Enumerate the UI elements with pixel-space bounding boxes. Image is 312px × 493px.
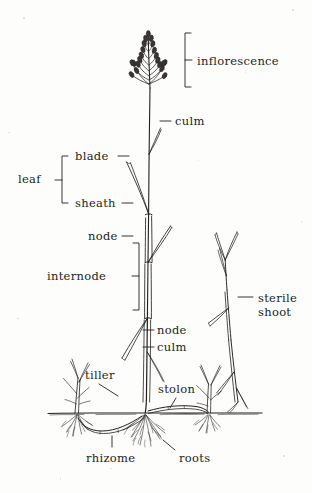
label-sheath: sheath [75, 197, 116, 210]
leaf-bracket [62, 156, 68, 203]
label-node-lower: node [157, 324, 187, 337]
stolon-tip-shoot-part [197, 365, 222, 413]
label-roots: roots [179, 452, 210, 465]
grass-morphology-figure [0, 0, 312, 493]
inflorescence-part [128, 30, 168, 88]
label-tiller: tiller [85, 369, 115, 382]
label-internode: internode [47, 270, 106, 283]
label-node-upper: node [88, 230, 118, 243]
tiller-leader [99, 384, 118, 396]
label-culm-lower: culm [157, 341, 187, 354]
label-rhizome: rhizome [86, 452, 135, 465]
roots-part [62, 415, 221, 447]
roots-leader [163, 440, 175, 450]
label-stolon: stolon [158, 383, 195, 396]
soil-line-part [48, 413, 262, 415]
label-culm-upper: culm [175, 115, 205, 128]
sterile-shoot-part [209, 232, 248, 413]
label-leaf: leaf [18, 173, 41, 186]
stolon-part [148, 405, 209, 413]
diagram-page: inflorescence culm leaf blade sheath nod… [0, 0, 312, 493]
internode-bracket [133, 243, 139, 310]
label-sterile-shoot: sterile shoot [258, 291, 297, 319]
rhizome-part [78, 416, 144, 434]
culm-part [145, 88, 150, 413]
label-blade: blade [75, 150, 109, 163]
label-inflorescence: inflorescence [197, 55, 279, 68]
